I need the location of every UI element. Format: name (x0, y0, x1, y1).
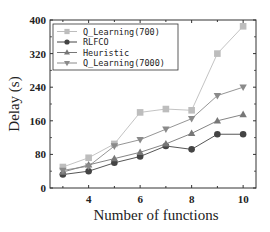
y-tick-label: 160 (30, 115, 47, 127)
legend-label: RLFCO (83, 37, 109, 47)
circle-marker-icon (240, 131, 247, 138)
y-tick-label: 80 (35, 148, 47, 160)
x-tick-label: 6 (137, 193, 143, 205)
x-tick-label: 4 (86, 193, 92, 205)
x-tick-label: 8 (189, 193, 195, 205)
square-marker-icon (188, 107, 195, 114)
circle-marker-icon (214, 131, 221, 138)
circle-marker-icon (188, 146, 195, 153)
legend-label: Heuristic (83, 48, 129, 58)
square-marker-icon (163, 106, 170, 113)
y-axis-title: Delay (s) (6, 76, 23, 131)
circle-marker-icon (64, 39, 69, 44)
square-marker-icon (64, 29, 69, 34)
y-tick-label: 240 (30, 81, 47, 93)
triangle-up-marker-icon (239, 111, 246, 118)
y-tick-label: 320 (30, 48, 47, 60)
y-tick-label: 0 (41, 182, 47, 194)
legend-label: Q_Learning(700) (83, 27, 160, 37)
square-marker-icon (240, 23, 247, 30)
legend-label: Q_Learning(7000) (83, 58, 165, 68)
line-chart: 08016024032040046810 Q_Learning(700)RLFC… (0, 0, 270, 232)
x-axis-title: Number of functions (94, 207, 219, 223)
x-tick-label: 10 (238, 193, 250, 205)
square-marker-icon (214, 50, 221, 57)
y-tick-label: 400 (30, 14, 47, 26)
series-rlfco (60, 131, 247, 178)
triangle-up-marker-icon (188, 130, 195, 137)
square-marker-icon (85, 154, 92, 161)
square-marker-icon (137, 109, 144, 116)
legend: Q_Learning(700)RLFCOHeuristicQ_Learning(… (53, 24, 178, 70)
